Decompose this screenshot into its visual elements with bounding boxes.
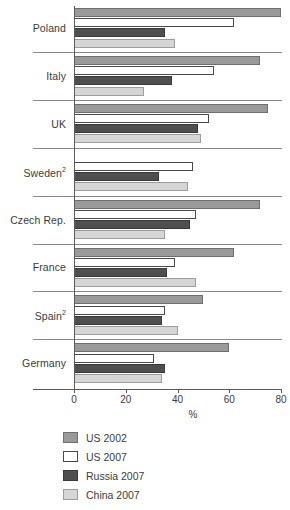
bar	[74, 326, 178, 335]
bar	[74, 210, 196, 219]
legend-label: Russia 2007	[86, 470, 144, 482]
legend-swatch-icon	[63, 489, 78, 500]
x-tick-label: 60	[224, 394, 235, 405]
bar	[74, 114, 209, 123]
bar	[74, 230, 165, 239]
bar	[74, 28, 165, 37]
x-axis-title-text: %	[189, 409, 198, 420]
bar	[74, 258, 175, 267]
group-separator	[33, 291, 282, 292]
legend-swatch-icon	[63, 451, 78, 462]
legend-item-china-2007: China 2007	[63, 485, 243, 504]
bar	[74, 374, 162, 383]
bar	[74, 354, 154, 363]
bar	[74, 8, 281, 17]
group-separator	[33, 339, 282, 340]
bar	[74, 87, 144, 96]
bar	[74, 306, 165, 315]
category-label: Sweden2	[0, 166, 66, 179]
bar	[74, 39, 175, 48]
x-tick	[229, 389, 230, 393]
x-axis-title: %	[0, 409, 290, 420]
x-tick-label: 0	[71, 394, 77, 405]
bar	[74, 182, 188, 191]
bar	[74, 76, 172, 85]
x-tick-label: 80	[275, 394, 286, 405]
legend-label: US 2007	[86, 451, 127, 463]
bar	[74, 278, 196, 287]
bar	[74, 104, 268, 113]
x-tick	[178, 389, 179, 393]
bar	[74, 248, 234, 257]
group-separator	[33, 100, 282, 101]
category-label: Germany	[0, 357, 66, 369]
group-separator	[33, 52, 282, 53]
bar	[74, 56, 260, 65]
bars-layer	[0, 0, 290, 395]
legend-item-us-2007: US 2007	[63, 447, 243, 466]
legend-item-us-2002: US 2002	[63, 428, 243, 447]
bar	[74, 364, 165, 373]
legend-item-russia-2007: Russia 2007	[63, 466, 243, 485]
bar	[74, 172, 159, 181]
legend-swatch-icon	[63, 432, 78, 443]
bar	[74, 343, 229, 352]
x-tick-label: 20	[120, 394, 131, 405]
bar	[74, 295, 203, 304]
category-label: France	[0, 261, 66, 273]
bar	[74, 134, 201, 143]
bar	[74, 316, 162, 325]
bar	[74, 162, 193, 171]
bar	[74, 220, 190, 229]
category-label: Czech Rep.	[0, 214, 66, 226]
bar	[74, 124, 198, 133]
category-label: Spain2	[0, 309, 66, 322]
x-tick	[74, 389, 75, 393]
bar	[74, 268, 167, 277]
y-axis-line	[74, 6, 75, 389]
x-tick-label: 40	[172, 394, 183, 405]
category-label: Poland	[0, 22, 66, 34]
group-separator	[33, 244, 282, 245]
bar	[74, 66, 214, 75]
x-tick	[281, 389, 282, 393]
legend-label: US 2002	[86, 432, 127, 444]
bar	[74, 200, 260, 209]
group-separator	[33, 148, 282, 149]
category-label: Italy	[0, 70, 66, 82]
category-label: UK	[0, 118, 66, 130]
plot-area: PolandItalyUKSweden2Czech Rep.FranceSpai…	[0, 0, 290, 395]
bar-chart: PolandItalyUKSweden2Czech Rep.FranceSpai…	[0, 0, 290, 510]
bar	[74, 18, 234, 27]
x-tick	[126, 389, 127, 393]
legend-label: China 2007	[86, 489, 140, 501]
legend-swatch-icon	[63, 470, 78, 481]
group-separator	[33, 196, 282, 197]
x-axis-line	[33, 389, 282, 390]
chart-legend: US 2002 US 2007 Russia 2007 China 2007	[63, 428, 243, 504]
